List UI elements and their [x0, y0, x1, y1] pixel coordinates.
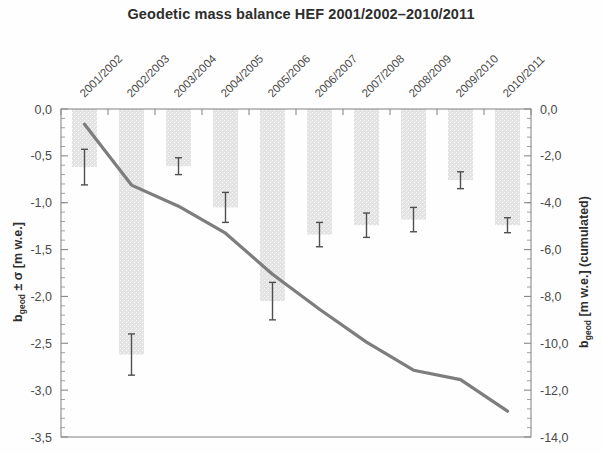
y-axis-left-title-subscript: geod [17, 294, 27, 314]
y-axis-right-title-subscript: geod [583, 320, 593, 340]
y-axis-right-title-text: [m w.e.] (cumulated) [577, 196, 591, 320]
axis-titles-layer: bgeod ± σ [m w.e.] bgeod [m w.e.] (cumul… [0, 0, 602, 453]
chart-figure: Geodetic mass balance HEF 2001/2002–2010… [0, 0, 602, 453]
y-axis-left-title-text: ± σ [m w.e.] [11, 222, 25, 294]
y-axis-right-title: bgeod [m w.e.] (cumulated) [577, 196, 593, 348]
y-axis-left-title: bgeod ± σ [m w.e.] [11, 222, 27, 322]
